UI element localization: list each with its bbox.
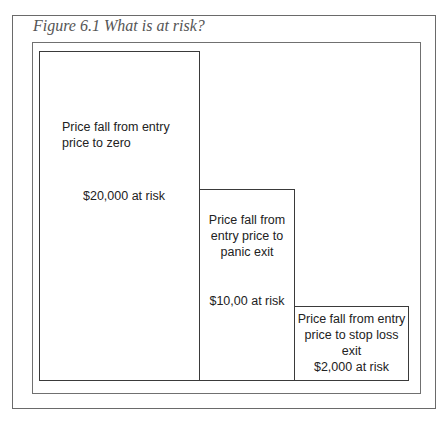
risk-box-entry-to-zero: Price fall from entry price to zero $20,…	[39, 51, 200, 381]
risk-box-amount: $20,000 at risk	[83, 188, 165, 204]
figure-title: Figure 6.1 What is at risk?	[33, 17, 205, 35]
risk-box-stop-loss-exit: Price fall from entry price to stop loss…	[294, 306, 409, 381]
risk-box-panic-exit: Price fall from entry price to panic exi…	[199, 189, 295, 381]
risk-box-description: Price fall from entry price to zero	[62, 119, 192, 151]
risk-box-description: Price fall from entry price to panic exi…	[200, 212, 294, 260]
risk-box-amount: $2,000 at risk	[295, 359, 408, 375]
risk-box-description: Price fall from entry price to stop loss…	[295, 311, 408, 359]
risk-box-amount: $10,00 at risk	[200, 293, 294, 309]
